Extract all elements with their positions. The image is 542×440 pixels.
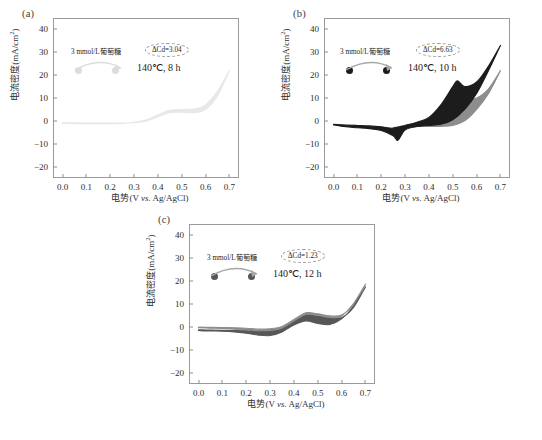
y-tick-label: 20 [310,70,324,80]
y-tick-label: −10 [170,345,189,355]
y-tick-label: 40 [310,24,324,34]
x-tick-label: 0.4 [423,178,434,192]
x-tick-label: 0.7 [360,384,371,398]
panel-b-label: (b) [293,8,306,19]
y-tick-label: 0 [44,116,54,126]
panel-b-axes: 403020100−10−20 0.00.10.20.30.40.50.60.7… [324,18,510,178]
x-tick-label: 0.7 [495,178,506,192]
y-tick-label: 20 [175,276,189,286]
y-tick-label: 30 [175,253,189,263]
x-tick-label: 0.0 [193,384,204,398]
panel-c-x-axis-label: 电势(V vs. Ag/AgCl) [186,397,386,410]
panel-a-y-axis-label: 电流密度(mA/cm2) [8,10,21,120]
y-tick-label: −20 [305,162,324,172]
y-tick-label: 10 [310,93,324,103]
y-tick-label: −10 [305,139,324,149]
cv-figure: (a) 电流密度(mA/cm2) 电势(V vs. Ag/AgCl) 40302… [0,0,542,440]
panel-b-y-axis-label: 电流密度(mA/cm2) [279,10,292,120]
x-tick-label: 0.1 [217,384,228,398]
panel-b-x-axis-label: 电势(V vs. Ag/AgCl) [321,191,521,204]
x-tick-label: 0.6 [200,178,211,192]
y-tick-label: 40 [39,24,53,34]
panel-b-curve [324,18,510,178]
x-tick-label: 0.3 [264,384,275,398]
panel-c-label: (c) [158,214,170,225]
y-tick-label: 20 [39,70,53,80]
x-tick-label: 0.2 [105,178,116,192]
y-tick-label: 0 [180,322,190,332]
y-tick-label: −20 [34,162,53,172]
x-tick-label: 0.0 [328,178,339,192]
x-tick-label: 0.3 [128,178,139,192]
panel-a-plot: (a) 电流密度(mA/cm2) 电势(V vs. Ag/AgCl) 40302… [0,0,271,215]
y-tick-label: 10 [175,299,189,309]
cv-loop [199,284,366,333]
x-tick-label: 0.6 [336,384,347,398]
panel-c-plot: (c) 电流密度(mA/cm2) 电势(V vs. Ag/AgCl) 40302… [136,206,407,421]
y-tick-label: 30 [39,47,53,57]
x-tick-label: 0.1 [81,178,92,192]
panel-a-label: (a) [22,8,34,19]
x-tick-label: 0.2 [376,178,387,192]
x-tick-label: 0.2 [241,384,252,398]
y-tick-label: 10 [39,93,53,103]
y-tick-label: 40 [175,230,189,240]
panel-a-curve [53,18,239,178]
x-tick-label: 0.5 [447,178,458,192]
y-tick-label: 0 [315,116,325,126]
panel-c-y-axis-label: 电流密度(mA/cm2) [144,216,157,326]
panel-c-axes: 403020100−10−20 0.00.10.20.30.40.50.60.7… [189,224,375,384]
x-tick-label: 0.4 [152,178,163,192]
panel-b-plot: (b) 电流密度(mA/cm2) 电势(V vs. Ag/AgCl) 40302… [271,0,542,215]
x-tick-label: 0.0 [57,178,68,192]
x-tick-label: 0.3 [399,178,410,192]
cv-loop [334,45,501,140]
x-tick-label: 0.6 [471,178,482,192]
x-tick-label: 0.5 [176,178,187,192]
x-tick-label: 0.1 [352,178,363,192]
cv-loop [63,71,230,124]
x-tick-label: 0.4 [288,384,299,398]
x-tick-label: 0.7 [224,178,235,192]
y-tick-label: −10 [34,139,53,149]
panel-c-curve [189,224,375,384]
panel-a-axes: 403020100−10−20 0.00.10.20.30.40.50.60.7… [53,18,239,178]
x-tick-label: 0.5 [312,384,323,398]
panel-a-x-axis-label: 电势(V vs. Ag/AgCl) [50,191,250,204]
y-tick-label: −20 [170,368,189,378]
y-tick-label: 30 [310,47,324,57]
